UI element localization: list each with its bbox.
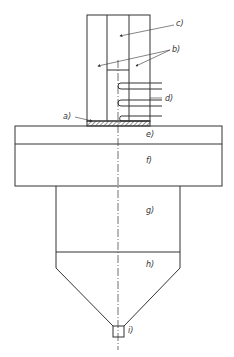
label-b: b) <box>172 46 180 54</box>
plate-block <box>15 126 222 186</box>
leader-lines <box>75 25 174 121</box>
coil-loops <box>118 83 162 121</box>
label-f: f) <box>146 157 152 165</box>
label-g: g) <box>146 207 154 215</box>
label-c: c) <box>176 20 184 28</box>
label-i: i) <box>128 327 133 335</box>
schematic-drawing <box>0 0 234 357</box>
hatched-layer <box>87 121 150 126</box>
outlet-box <box>113 326 124 337</box>
label-h: h) <box>146 261 154 269</box>
label-d: d) <box>165 95 173 103</box>
label-a: a) <box>63 113 71 121</box>
label-e: e) <box>146 131 154 139</box>
